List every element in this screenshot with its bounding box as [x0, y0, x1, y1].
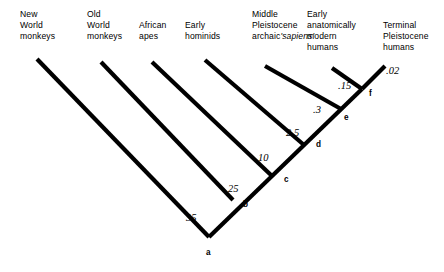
taxon-label-early-modern-humans: Early anatomically modern humans	[307, 9, 356, 53]
branch-value-10: 10	[258, 152, 269, 163]
branch-value-2-5: 2.5	[286, 127, 299, 138]
taxon-label-old-world-monkeys: Old World monkeys	[87, 9, 122, 42]
branch-middle-pleistocene	[265, 66, 341, 109]
cladogram-figure: New World monkeys Old World monkeys Afri…	[0, 0, 444, 272]
node-label-e: e	[344, 113, 349, 122]
taxon-label-early-hominids: Early hominids	[185, 20, 220, 42]
node-label-a: a	[206, 248, 211, 257]
branch-value-25: 25	[228, 183, 239, 194]
branch-old-world-monkeys	[101, 62, 233, 200]
branch-african-apes	[152, 62, 272, 176]
branch-value-0-15: .15	[338, 80, 351, 91]
node-label-d: d	[316, 140, 321, 149]
taxon-label-new-world-monkeys: New World monkeys	[20, 9, 55, 42]
taxon-label-middle-pleistocene: Middle Pleistocene archaic'sapiens'	[252, 9, 314, 42]
cladogram-tree	[0, 0, 444, 272]
tree-branches	[37, 59, 385, 237]
node-label-c: c	[284, 175, 289, 184]
taxon-label-african-apes: African apes	[139, 20, 166, 42]
node-label-b: b	[243, 200, 248, 209]
branch-value-0-02: .02	[386, 65, 399, 76]
taxon-label-terminal-pleistocene: Terminal Pleistocene humans	[383, 20, 429, 53]
branch-value-35: 35	[186, 212, 197, 223]
branch-backbone-spine	[209, 89, 362, 237]
branch-terminal-pleistocene	[362, 66, 385, 89]
branch-value-0-3: .3	[313, 104, 321, 115]
node-label-f: f	[369, 89, 372, 98]
